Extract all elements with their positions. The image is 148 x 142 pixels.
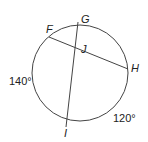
label-g: G (81, 13, 90, 25)
label-i: I (64, 127, 67, 139)
arc-label-140: 140° (9, 75, 32, 87)
label-h: H (131, 62, 139, 74)
circle-diagram: G F J H I 140° 120° (0, 0, 148, 142)
circle (32, 25, 128, 121)
arc-label-120: 120° (113, 112, 136, 124)
chord-gi (66, 22, 78, 127)
label-j: J (80, 43, 87, 55)
